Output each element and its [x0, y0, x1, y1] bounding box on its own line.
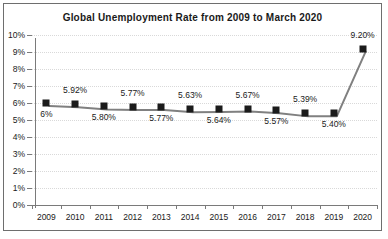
data-point-label: 5.67% [236, 90, 260, 100]
grid-line [32, 137, 377, 138]
data-point-marker [100, 103, 107, 110]
data-point-label: 5.40% [322, 119, 346, 129]
data-point-marker [72, 101, 79, 108]
data-point-marker [129, 103, 136, 110]
data-point-marker [158, 103, 165, 110]
x-axis-tick [262, 205, 263, 209]
x-axis-tick [147, 205, 148, 209]
x-axis-tick [320, 205, 321, 209]
x-axis-tick [291, 205, 292, 209]
data-point-marker [43, 100, 50, 107]
data-point-marker [215, 106, 222, 113]
grid-line [32, 154, 377, 155]
chart-title: Global Unemployment Rate from 2009 to Ma… [4, 12, 381, 23]
x-axis-tick [118, 205, 119, 209]
y-axis-tick-label: 4% [1, 132, 25, 142]
grid-line [32, 52, 377, 53]
data-point-label: 5.63% [178, 90, 202, 100]
y-axis-tick-label: 1% [1, 183, 25, 193]
grid-line [32, 35, 377, 36]
x-axis-tick [205, 205, 206, 209]
x-axis-tick [32, 205, 33, 209]
y-axis-tick-label: 9% [1, 47, 25, 57]
data-point-label: 5.39% [293, 94, 317, 104]
data-point-label: 6% [40, 109, 52, 119]
data-point-label: 5.64% [207, 115, 231, 125]
x-axis-tick [233, 205, 234, 209]
y-axis-tick-label: 3% [1, 149, 25, 159]
data-point-marker [359, 45, 366, 52]
y-axis-tick-label: 2% [1, 166, 25, 176]
x-axis-tick [61, 205, 62, 209]
y-axis-tick-label: 0% [1, 200, 25, 210]
x-axis-tick [348, 205, 349, 209]
x-axis-tick [90, 205, 91, 209]
y-axis-tick-label: 8% [1, 64, 25, 74]
x-axis-tick [176, 205, 177, 209]
y-axis-line [35, 38, 36, 208]
data-point-marker [273, 107, 280, 114]
x-axis-tick-label: 2020 [346, 212, 380, 222]
data-point-label: 5.77% [149, 113, 173, 123]
y-axis-tick-label: 5% [1, 115, 25, 125]
data-point-marker [187, 106, 194, 113]
data-point-marker [244, 105, 251, 112]
x-axis-tick [377, 205, 378, 209]
chart-container: Global Unemployment Rate from 2009 to Ma… [3, 3, 382, 231]
data-point-label: 5.80% [92, 112, 116, 122]
data-point-label: 5.77% [121, 88, 145, 98]
y-axis-tick-label: 10% [1, 30, 25, 40]
grid-line [32, 69, 377, 70]
data-point-label: 5.57% [264, 116, 288, 126]
data-point-label: 9.20% [351, 30, 375, 40]
grid-line [32, 103, 377, 104]
grid-line [32, 188, 377, 189]
data-point-marker [302, 110, 309, 117]
data-point-label: 5.92% [63, 85, 87, 95]
data-point-marker [330, 110, 337, 117]
grid-line [32, 171, 377, 172]
y-axis-tick-label: 7% [1, 81, 25, 91]
y-axis-tick-label: 6% [1, 98, 25, 108]
